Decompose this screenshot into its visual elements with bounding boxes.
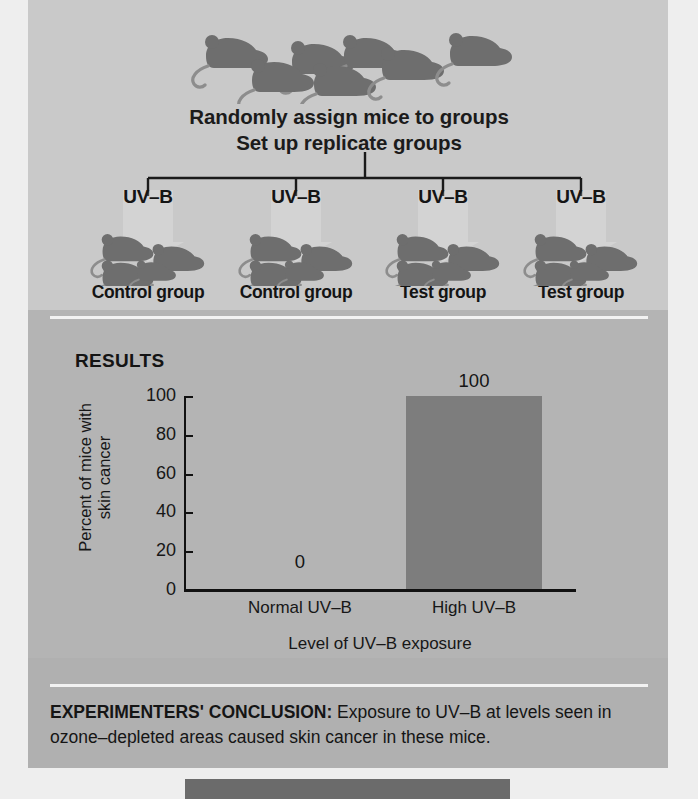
y-tick-label: 60: [130, 463, 176, 484]
conclusion-label: EXPERIMENTERS' CONCLUSION:: [50, 702, 332, 722]
y-tick-label: 100: [130, 385, 176, 406]
group-mice: [506, 230, 656, 282]
y-tick-mark: [186, 435, 193, 437]
group-mice: [73, 230, 223, 282]
bar-chart: Percent of mice with skin cancer 100 80 …: [0, 330, 698, 650]
group-column-1: UV–B Control group: [73, 186, 223, 310]
y-tick-label: 0: [130, 579, 176, 600]
group-mice: [368, 230, 518, 282]
headline-line-1: Randomly assign mice to groups: [0, 104, 698, 130]
y-axis-label: Percent of mice with skin cancer: [76, 377, 115, 577]
y-tick-mark: [186, 396, 193, 398]
uvb-label: UV–B: [506, 186, 656, 208]
x-tick-label: Normal UV–B: [222, 598, 378, 618]
y-tick-label: 20: [130, 540, 176, 561]
y-tick-mark: [186, 474, 193, 476]
y-tick-mark: [186, 512, 193, 514]
y-tick-label: 40: [130, 501, 176, 522]
uvb-label: UV–B: [221, 186, 371, 208]
x-axis-line: [184, 589, 576, 592]
x-tick-label: High UV–B: [400, 598, 548, 618]
mouse-icon-group: [221, 230, 371, 286]
y-axis-label-line-1: Percent of mice with: [76, 377, 95, 577]
group-column-4: UV–B Test group: [506, 186, 656, 310]
bar-high-uvb: [406, 396, 542, 589]
uvb-label: UV–B: [73, 186, 223, 208]
y-axis-label-line-2: skin cancer: [95, 377, 114, 577]
y-tick-mark: [186, 551, 193, 553]
bar-value-label: 100: [406, 370, 542, 392]
headline-line-2: Set up replicate groups: [0, 130, 698, 156]
group-column-2: UV–B Control group: [221, 186, 371, 310]
bar-value-label: 0: [232, 551, 368, 573]
uvb-label: UV–B: [368, 186, 518, 208]
footer-bar: [185, 779, 510, 799]
experiment-headline: Randomly assign mice to groups Set up re…: [0, 104, 698, 156]
separator-line-bottom: [50, 684, 648, 687]
y-axis-line: [184, 396, 186, 590]
figure-root: Randomly assign mice to groups Set up re…: [0, 0, 698, 799]
group-column-3: UV–B Test group: [368, 186, 518, 310]
mouse-icon-group: [190, 28, 520, 104]
mouse-icon-group: [506, 230, 656, 286]
x-axis-label: Level of UV–B exposure: [184, 634, 576, 654]
mouse-icon-group: [368, 230, 518, 286]
mouse-icon-group: [73, 230, 223, 286]
separator-line-top: [50, 316, 648, 319]
group-mice: [221, 230, 371, 282]
conclusion-text: EXPERIMENTERS' CONCLUSION: Exposure to U…: [50, 700, 648, 750]
y-tick-label: 80: [130, 424, 176, 445]
mice-pool: [190, 28, 520, 100]
group-columns: UV–B Control group UV–B: [0, 186, 698, 310]
